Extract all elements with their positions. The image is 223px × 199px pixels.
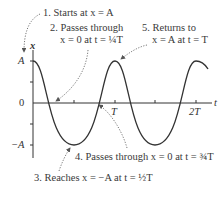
annotation-2-line1: 2. Passes through xyxy=(50,22,123,33)
y-tick-0: 0 xyxy=(19,97,24,108)
annotation-5-line1: 5. Returns to xyxy=(142,22,196,33)
annotation-1: 1. Starts at x = A xyxy=(43,7,114,18)
annotation-4: 4. Passes through x = 0 at t = ¾T xyxy=(75,151,214,162)
x-axis-label: t xyxy=(214,97,217,108)
y-tick-minus-A: −A xyxy=(11,139,25,150)
x-tick-2T: 2T xyxy=(189,106,200,117)
x-tick-T: T xyxy=(111,106,117,117)
annotation-3: 3. Reaches x = −A at t = ½T xyxy=(34,172,153,183)
annotation-5-line2: x = A at t = T xyxy=(152,34,208,45)
y-tick-A: A xyxy=(18,55,24,66)
y-axis-label: x xyxy=(30,40,35,51)
annotation-2-line2: x = 0 at t = ¼T xyxy=(60,34,123,45)
